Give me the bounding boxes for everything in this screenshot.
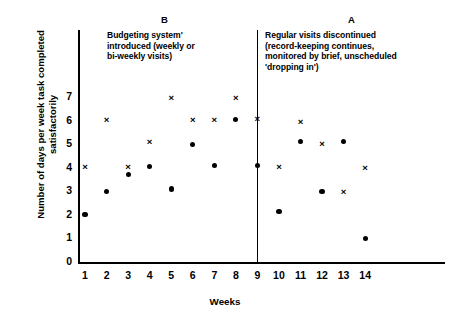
y-tick-label-7: 7 [58,90,72,102]
dot-marker-week-14 [363,236,368,241]
dot-marker-week-7 [212,163,217,168]
cross-marker-week-1: × [81,162,90,171]
cross-marker-week-11: × [296,117,305,126]
cross-marker-week-10: × [274,162,283,171]
y-tick-label-1: 1 [58,231,72,243]
phase-b-note-line-1: Budgeting system' [107,30,252,41]
dot-marker-week-8 [233,117,238,122]
phase-b-note: Budgeting system' introduced (weekly or … [107,30,252,62]
phase-b-note-line-3: bi-weekly visits) [107,51,252,62]
dot-marker-week-9 [255,163,260,168]
phase-b-letter: B [161,14,168,25]
phase-a-note-line-2: (record-keeping continues, [265,41,455,52]
y-tick-label-2: 2 [58,208,72,220]
y-axis-line [78,30,80,263]
dot-marker-week-12 [319,189,324,194]
phase-a-note-line-3: monitored by brief, unscheduled [265,51,455,62]
x-tick-label-9: 9 [247,269,267,281]
dot-marker-week-1 [82,212,87,217]
x-tick-label-11: 11 [291,269,311,281]
x-tick-label-5: 5 [161,269,181,281]
dot-marker-week-10 [276,209,281,214]
chart-figure: B Budgeting system' introduced (weekly o… [0,0,455,326]
x-tick-label-7: 7 [204,269,224,281]
phase-b-note-line-2: introduced (weekly or [107,41,252,52]
dot-marker-week-4 [147,164,152,169]
y-tick-label-4: 4 [58,161,72,173]
dot-marker-week-6 [190,142,195,147]
x-tick-label-8: 8 [226,269,246,281]
x-tick-label-10: 10 [269,269,289,281]
x-tick-label-4: 4 [140,269,160,281]
cross-marker-week-3: × [124,162,133,171]
x-tick-label-13: 13 [334,269,354,281]
phase-a-note: Regular visits discontinued (record-keep… [265,30,455,72]
dot-marker-week-11 [298,139,303,144]
cross-marker-week-9: × [253,114,262,123]
dot-marker-week-13 [341,139,346,144]
x-tick-label-3: 3 [118,269,138,281]
y-tick-label-3: 3 [58,184,72,196]
cross-marker-week-6: × [188,115,197,124]
x-tick-label-12: 12 [312,269,332,281]
phase-a-letter: A [348,14,355,25]
y-tick-label-6: 6 [58,114,72,126]
cross-marker-week-14: × [361,163,370,172]
phase-a-note-line-4: 'dropping in') [265,62,455,73]
y-tick-label-0: 0 [58,255,72,267]
y-axis-title: Number of days per week task completed s… [35,29,60,219]
cross-marker-week-8: × [231,93,240,102]
cross-marker-week-12: × [318,139,327,148]
x-tick-label-1: 1 [75,269,95,281]
phase-divider-line [257,30,258,263]
dot-marker-week-3 [126,172,131,177]
cross-marker-week-7: × [210,115,219,124]
dot-marker-week-5 [169,186,174,191]
x-axis-line [78,262,445,264]
x-tick-label-2: 2 [97,269,117,281]
x-axis-title: Weeks [175,296,275,307]
cross-marker-week-2: × [102,115,111,124]
cross-marker-week-4: × [145,137,154,146]
cross-marker-week-5: × [167,93,176,102]
y-tick-label-5: 5 [58,137,72,149]
dot-marker-week-2 [104,189,109,194]
x-tick-label-6: 6 [183,269,203,281]
x-tick-label-14: 14 [355,269,375,281]
phase-a-note-line-1: Regular visits discontinued [265,30,455,41]
cross-marker-week-13: × [339,187,348,196]
